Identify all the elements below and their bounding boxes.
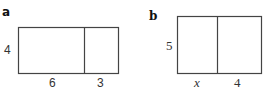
panel-label: a bbox=[2, 5, 10, 19]
outer-rectangle bbox=[19, 28, 119, 74]
width-label-left: 6 bbox=[49, 76, 56, 90]
outer-rectangle bbox=[178, 17, 262, 74]
panel-label: b bbox=[149, 9, 157, 23]
width-label-left: x bbox=[193, 75, 200, 90]
width-label-right: 3 bbox=[97, 76, 104, 90]
height-label: 4 bbox=[4, 43, 11, 57]
panel-a: a 4 6 3 bbox=[2, 5, 119, 90]
height-label: 5 bbox=[166, 38, 173, 53]
width-label-right: 4 bbox=[234, 75, 241, 90]
panel-b: b 5 x 4 bbox=[149, 9, 262, 90]
area-model-diagram: a 4 6 3 b 5 x 4 bbox=[0, 0, 269, 95]
